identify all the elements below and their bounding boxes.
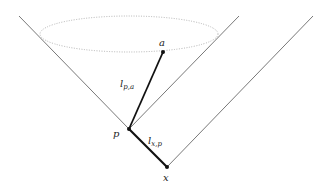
- label-x: x: [163, 172, 169, 183]
- cone-left-edge: [19, 16, 129, 129]
- label-l-x-p: lx,p: [148, 135, 162, 148]
- point-p: [127, 127, 131, 131]
- label-l-p-a: lp,a: [120, 78, 134, 91]
- label-l-x-p-sub: x,p: [151, 140, 162, 148]
- segment-l-p-a: [129, 52, 163, 129]
- cone-cross-section-ellipse: [40, 16, 218, 52]
- light-cone-diagram: a p x lp,a lx,p: [0, 0, 325, 187]
- label-l-p-a-sub: p,a: [123, 83, 134, 91]
- label-a: a: [159, 37, 165, 48]
- cone-right-edge-outer: [167, 16, 313, 167]
- point-x: [165, 165, 169, 169]
- cone-right-edge-inner: [129, 16, 239, 129]
- label-p: p: [113, 128, 120, 139]
- point-a: [161, 50, 165, 54]
